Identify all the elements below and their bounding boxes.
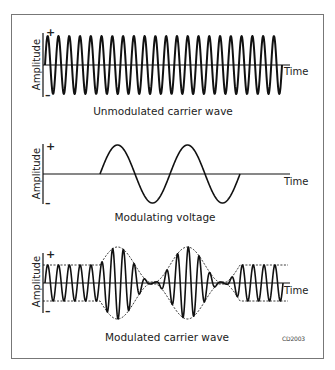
caption-unmodulated: Unmodulated carrier wave (93, 105, 233, 117)
caption-modulated: Modulated carrier wave (105, 331, 229, 343)
amplitude-axis-label-2: Amplitude (31, 148, 42, 199)
amplitude-axis-label-3: Amplitude (31, 256, 42, 307)
minus-sign-3: – (45, 305, 51, 318)
minus-sign-1: – (45, 89, 51, 102)
caption-modulating: Modulating voltage (114, 211, 215, 223)
figure-code: CD2003 (282, 335, 305, 342)
plus-sign-1: + (46, 26, 55, 39)
plus-sign-2: + (46, 140, 55, 153)
time-axis-label-3: Time (284, 285, 308, 296)
time-axis-label-2: Time (284, 176, 308, 187)
time-axis-label-1: Time (284, 66, 308, 77)
amplitude-axis-label-1: Amplitude (31, 39, 42, 90)
minus-sign-2: – (45, 197, 51, 210)
plus-sign-3: + (46, 248, 55, 261)
lower-envelope (43, 284, 288, 319)
